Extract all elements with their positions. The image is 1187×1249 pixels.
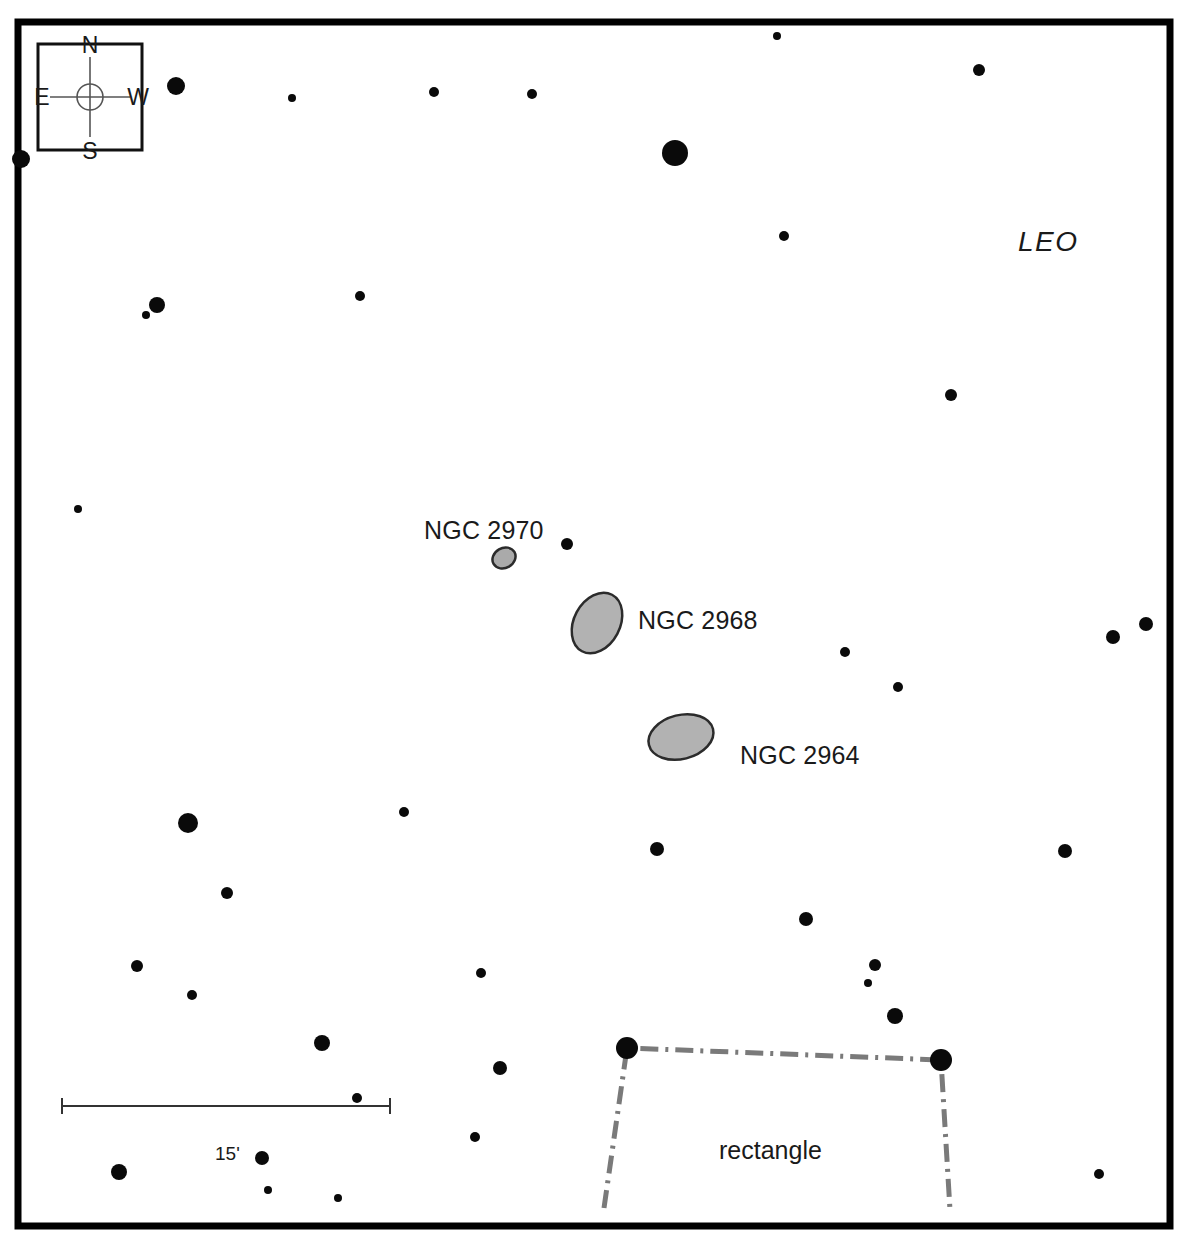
star-marker xyxy=(893,682,903,692)
star-marker xyxy=(149,297,165,313)
compass-north-label: N xyxy=(82,32,99,58)
star-marker xyxy=(869,959,881,971)
star-marker xyxy=(167,77,185,95)
star-marker xyxy=(616,1037,638,1059)
star-marker xyxy=(493,1061,507,1075)
star-marker xyxy=(1139,617,1153,631)
star-marker xyxy=(799,912,813,926)
star-marker xyxy=(773,32,781,40)
star-marker xyxy=(264,1186,272,1194)
star-marker xyxy=(476,968,486,978)
star-marker xyxy=(973,64,985,76)
scale-bar-label: 15' xyxy=(215,1143,240,1165)
star-marker xyxy=(399,807,409,817)
star-marker xyxy=(1106,630,1120,644)
galaxy-ngc-2968 xyxy=(562,584,633,662)
star-marker xyxy=(650,842,664,856)
star-marker xyxy=(429,87,439,97)
constellation-label-leo: LEO xyxy=(1018,226,1079,258)
star-marker xyxy=(187,990,197,1000)
galaxy-label-ngc-2964: NGC 2964 xyxy=(740,741,860,770)
scale-bar xyxy=(62,1098,390,1114)
star-marker xyxy=(131,960,143,972)
star-marker xyxy=(470,1132,480,1142)
star-marker xyxy=(288,94,296,102)
star-marker xyxy=(314,1035,330,1051)
galaxy-label-ngc-2970: NGC 2970 xyxy=(424,516,544,545)
star-marker xyxy=(1058,844,1072,858)
star-marker xyxy=(662,140,688,166)
star-marker xyxy=(334,1194,342,1202)
star-marker xyxy=(779,231,789,241)
star-marker xyxy=(840,647,850,657)
star-marker xyxy=(12,150,30,168)
star-marker xyxy=(945,389,957,401)
star-marker xyxy=(355,291,365,301)
star-marker xyxy=(142,311,150,319)
star-marker xyxy=(352,1093,362,1103)
star-marker xyxy=(887,1008,903,1024)
star-marker xyxy=(930,1049,952,1071)
asterism-label-rectangle: rectangle xyxy=(719,1136,822,1165)
galaxy-ngc-2970 xyxy=(489,543,520,572)
galaxy-label-ngc-2968: NGC 2968 xyxy=(638,606,758,635)
star-marker xyxy=(111,1164,127,1180)
star-marker xyxy=(221,887,233,899)
star-chart: N S E W LEO NGC 2970 NGC 2968 NGC 2964 r… xyxy=(0,0,1187,1249)
compass-south-label: S xyxy=(82,138,97,164)
star-marker xyxy=(255,1151,269,1165)
compass-east-label: E xyxy=(34,84,49,110)
sky-canvas: N S E W xyxy=(0,0,1187,1249)
star-marker xyxy=(1094,1169,1104,1179)
star-marker xyxy=(864,979,872,987)
galaxy-shapes xyxy=(489,543,719,766)
star-marker xyxy=(178,813,198,833)
star-marker xyxy=(561,538,573,550)
compass-rose: N S E W xyxy=(34,32,149,164)
compass-west-label: W xyxy=(127,84,149,110)
star-marker xyxy=(74,505,82,513)
star-marker xyxy=(527,89,537,99)
asterism-rectangle-line xyxy=(604,1048,950,1210)
galaxy-ngc-2964 xyxy=(644,708,719,767)
